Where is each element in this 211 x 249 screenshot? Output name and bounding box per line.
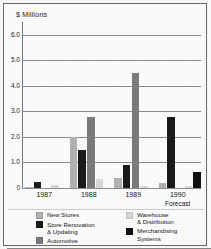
bar: [140, 186, 148, 188]
legend-divider: [8, 209, 204, 210]
x-tick-label: 1988: [67, 191, 112, 200]
bar: [87, 117, 95, 189]
figure-border: $ Millions 01.02.03.04.05.06.0 198719881…: [3, 3, 207, 246]
y-tick-label: 2.0: [11, 134, 20, 141]
legend-swatch-icon: [126, 228, 133, 235]
bar: [123, 165, 131, 188]
legend-label: Warehouse & Distribution: [137, 211, 174, 225]
legend-label: Merchandising Systems: [137, 227, 177, 241]
legend-swatch-icon: [126, 212, 133, 219]
x-tick-year: 1989: [125, 191, 141, 198]
bar: [193, 172, 201, 188]
legend-swatch-icon: [36, 221, 43, 228]
chart-figure: $ Millions 01.02.03.04.05.06.0 198719881…: [0, 0, 211, 249]
bar: [132, 73, 140, 188]
x-tick-year: 1990: [170, 191, 186, 198]
x-tick-sublabel: Forecast: [156, 200, 201, 209]
gridline-0: 0: [23, 188, 201, 189]
x-tick-year: 1987: [36, 191, 52, 198]
y-tick-label: 6.0: [11, 32, 20, 39]
legend-item[interactable]: Merchandising Systems: [126, 227, 177, 241]
bar-series-layer: [23, 22, 201, 188]
bar: [159, 183, 167, 188]
legend-item[interactable]: New Stores: [36, 211, 95, 219]
x-tick-label: 1989: [111, 191, 156, 200]
legend-label: Automotive: [47, 237, 78, 244]
y-tick-label: 5.0: [11, 57, 20, 64]
legend-item[interactable]: Warehouse & Distribution: [126, 211, 177, 225]
bar: [34, 182, 42, 188]
legend-column-right: Warehouse & DistributionMerchandising Sy…: [126, 211, 177, 244]
bar: [96, 179, 104, 188]
bar: [51, 185, 59, 188]
plot-box: 01.02.03.04.05.06.0: [22, 22, 200, 189]
x-tick-label: 1990Forecast: [156, 191, 201, 208]
y-tick-label: 1.0: [11, 159, 20, 166]
y-axis-title: $ Millions: [16, 11, 47, 18]
legend-label: New Stores: [47, 211, 79, 218]
bar: [70, 137, 78, 188]
chart-legend: New StoresStore Renovation & UpdatingAut…: [8, 211, 204, 245]
legend-column-left: New StoresStore Renovation & UpdatingAut…: [36, 211, 95, 246]
legend-item[interactable]: Store Renovation & Updating: [36, 221, 95, 235]
plot-area: $ Millions 01.02.03.04.05.06.0 198719881…: [8, 8, 204, 198]
bar: [185, 186, 193, 188]
legend-swatch-icon: [36, 212, 43, 219]
legend-label: Store Renovation & Updating: [47, 221, 95, 235]
bar: [114, 178, 122, 188]
bar: [78, 150, 86, 188]
legend-swatch-icon: [36, 237, 43, 244]
x-tick-label: 1987: [22, 191, 67, 200]
bar: [167, 117, 175, 189]
legend-item[interactable]: Automotive: [36, 237, 95, 245]
x-tick-year: 1988: [81, 191, 97, 198]
y-tick-label: 3.0: [11, 108, 20, 115]
y-tick-label: 0: [16, 185, 20, 192]
y-tick-label: 4.0: [11, 83, 20, 90]
bar: [25, 187, 33, 188]
